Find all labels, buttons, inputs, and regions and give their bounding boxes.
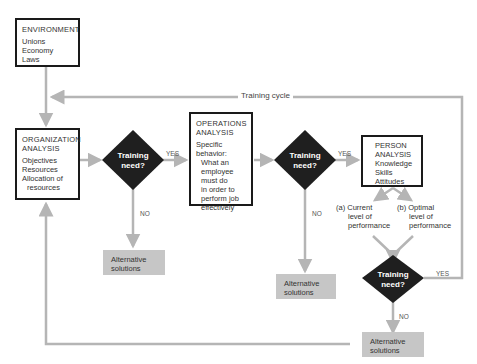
decision-text: Training bbox=[280, 151, 330, 161]
current-performance-label: (a) Current level of performance bbox=[336, 203, 390, 230]
alt-text: Alternative bbox=[284, 279, 328, 288]
operations-item: employee bbox=[196, 167, 246, 176]
operations-item: perform job bbox=[196, 194, 246, 203]
operations-title: OPERATIONS bbox=[196, 119, 246, 128]
perf-text: performance bbox=[397, 221, 451, 230]
yes-label-2: YES bbox=[338, 150, 351, 157]
decision-text: need? bbox=[108, 161, 158, 171]
perf-text: level of bbox=[397, 212, 451, 221]
person-title: PERSON bbox=[375, 141, 416, 150]
optimal-performance-label: (b) Optimal level of performance bbox=[397, 203, 451, 230]
no-label-1: NO bbox=[140, 210, 150, 217]
organization-item: resources bbox=[22, 183, 73, 192]
training-cycle-label: Training cycle bbox=[238, 91, 293, 100]
decision-text: Training bbox=[108, 151, 158, 161]
alternative-solutions-box-2: Alternative solutions bbox=[276, 274, 336, 299]
organization-title: ANALYSIS bbox=[22, 144, 73, 153]
alt-text: solutions bbox=[111, 264, 157, 273]
person-item: Skills bbox=[375, 168, 416, 177]
decision-text: Training bbox=[368, 270, 418, 280]
decision-text: need? bbox=[280, 161, 330, 171]
operations-item: Specific bbox=[196, 140, 246, 149]
operations-item: behavior: bbox=[196, 149, 246, 158]
no-label-3: NO bbox=[399, 313, 409, 320]
alt-text: solutions bbox=[284, 288, 328, 297]
alt-text: solutions bbox=[370, 346, 416, 355]
yes-label-1: YES bbox=[166, 150, 179, 157]
operations-analysis-box: OPERATIONS ANALYSIS Specific behavior: W… bbox=[189, 112, 253, 206]
operations-item: effectively bbox=[196, 203, 246, 212]
person-item: Knowledge bbox=[375, 159, 416, 168]
no-label-2: NO bbox=[312, 210, 322, 217]
decision-label-3: Training need? bbox=[368, 270, 418, 289]
decision-label-1: Training need? bbox=[108, 151, 158, 170]
environment-item: Unions bbox=[22, 37, 73, 46]
operations-item: must do bbox=[196, 176, 246, 185]
perf-text: (a) Current bbox=[336, 203, 390, 212]
operations-item: What an bbox=[196, 158, 246, 167]
operations-title: ANALYSIS bbox=[196, 128, 246, 137]
person-title: ANALYSIS bbox=[375, 150, 416, 159]
perf-text: level of bbox=[336, 212, 390, 221]
environment-item: Economy bbox=[22, 46, 73, 55]
perf-text: performance bbox=[336, 221, 390, 230]
alternative-solutions-box-3: Alternative solutions bbox=[362, 332, 424, 357]
operations-item: in order to bbox=[196, 185, 246, 194]
organization-item: Objectives bbox=[22, 156, 73, 165]
organization-analysis-box: ORGANIZATION ANALYSIS Objectives Resourc… bbox=[15, 128, 80, 200]
decision-label-2: Training need? bbox=[280, 151, 330, 170]
yes-label-3: YES bbox=[436, 270, 449, 277]
environment-title: ENVIRONMENT bbox=[22, 25, 73, 34]
organization-item: Allocation of bbox=[22, 174, 73, 183]
environment-item: Laws bbox=[22, 55, 73, 64]
person-analysis-box: PERSON ANALYSIS Knowledge Skills Attitud… bbox=[361, 135, 423, 187]
alt-text: Alternative bbox=[111, 255, 157, 264]
organization-item: Resources bbox=[22, 165, 73, 174]
alt-text: Alternative bbox=[370, 337, 416, 346]
organization-title: ORGANIZATION bbox=[22, 135, 73, 144]
decision-text: need? bbox=[368, 280, 418, 290]
perf-text: (b) Optimal bbox=[397, 203, 451, 212]
alternative-solutions-box-1: Alternative solutions bbox=[103, 250, 165, 275]
environment-box: ENVIRONMENT Unions Economy Laws bbox=[15, 18, 80, 67]
person-item: Attitudes bbox=[375, 177, 416, 186]
